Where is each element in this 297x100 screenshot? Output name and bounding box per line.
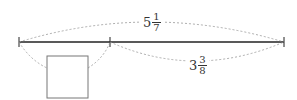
- whole-part: 3: [189, 58, 197, 73]
- total-length-label: 5 1 7: [141, 12, 163, 33]
- right-segment-label: 3 3 8: [187, 55, 209, 76]
- denominator: 8: [199, 66, 205, 76]
- left-brace-a: [19, 42, 47, 68]
- left-brace-b: [88, 42, 110, 68]
- whole-part: 5: [143, 15, 151, 30]
- denominator: 7: [153, 23, 159, 33]
- answer-box: [47, 56, 88, 98]
